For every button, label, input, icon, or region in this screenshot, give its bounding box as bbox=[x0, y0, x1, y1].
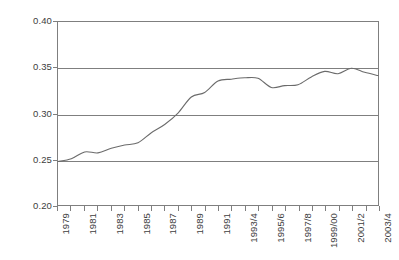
x-axis-tick-label: 1981 bbox=[88, 213, 98, 235]
x-axis-tick-mark bbox=[299, 206, 300, 211]
x-axis-tick-mark bbox=[70, 206, 71, 211]
x-axis-tick-mark bbox=[245, 206, 246, 211]
x-axis-tick-mark bbox=[366, 206, 367, 211]
x-axis-tick-mark bbox=[218, 206, 219, 211]
y-axis-tick-label: 0.25 bbox=[4, 155, 52, 165]
x-axis-tick-mark bbox=[352, 206, 353, 211]
x-axis-tick-mark bbox=[138, 206, 139, 211]
x-axis-tick-mark bbox=[272, 206, 273, 211]
x-axis-tick-label: 1979 bbox=[61, 213, 71, 235]
x-axis-tick-label: 1993/4 bbox=[249, 213, 259, 243]
x-axis-tick-mark bbox=[97, 206, 98, 211]
y-axis-tick-label: 0.20 bbox=[4, 201, 52, 211]
x-axis-tick-label: 2003/4 bbox=[383, 213, 393, 243]
x-axis-tick-mark bbox=[205, 206, 206, 211]
x-axis-tick-mark bbox=[231, 206, 232, 211]
x-axis-tick-mark bbox=[164, 206, 165, 211]
series-path-share bbox=[58, 68, 378, 161]
series-line-chart bbox=[58, 22, 378, 205]
x-axis-tick-mark bbox=[191, 206, 192, 211]
y-axis-tick-label: 0.40 bbox=[4, 16, 52, 26]
x-axis-tick-mark bbox=[84, 206, 85, 211]
y-axis-tick-label: 0.30 bbox=[4, 109, 52, 119]
x-axis-tick-label: 1991 bbox=[222, 213, 232, 235]
x-axis-tick-label: 1999/00 bbox=[329, 213, 339, 248]
x-axis-tick-mark bbox=[151, 206, 152, 211]
x-axis-tick-label: 1989 bbox=[195, 213, 205, 235]
x-axis-tick-mark bbox=[258, 206, 259, 211]
x-axis-tick-mark bbox=[285, 206, 286, 211]
plot-area bbox=[57, 21, 379, 206]
x-axis-tick-label: 1987 bbox=[168, 213, 178, 235]
x-axis-tick-mark bbox=[124, 206, 125, 211]
x-axis-tick-mark bbox=[57, 206, 58, 211]
x-axis-tick-label: 1995/6 bbox=[276, 213, 286, 243]
chart-container: 0.200.250.300.350.40 1979198119831985198… bbox=[0, 0, 399, 260]
y-axis-tick-label: 0.35 bbox=[4, 62, 52, 72]
x-axis-tick-mark bbox=[111, 206, 112, 211]
x-axis-tick-label: 2001/2 bbox=[356, 213, 366, 243]
x-axis-tick-label: 1985 bbox=[142, 213, 152, 235]
x-axis-tick-mark bbox=[312, 206, 313, 211]
x-axis-tick-mark bbox=[339, 206, 340, 211]
x-axis-tick-label: 1997/8 bbox=[303, 213, 313, 243]
x-axis-tick-mark bbox=[178, 206, 179, 211]
x-axis-tick-mark bbox=[325, 206, 326, 211]
x-axis-tick-label: 1983 bbox=[115, 213, 125, 235]
x-axis-tick-mark bbox=[379, 206, 380, 211]
